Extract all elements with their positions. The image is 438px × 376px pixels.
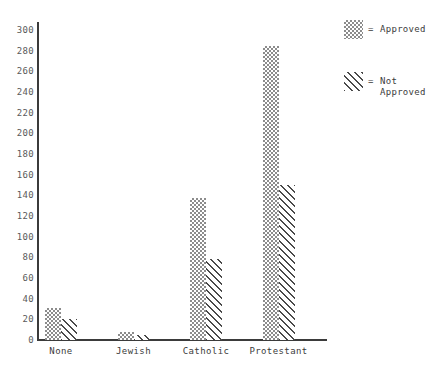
bar (118, 332, 134, 340)
bar (190, 198, 206, 340)
y-axis-tick-label: 160 (4, 170, 34, 180)
y-axis-tick-labels: 0204060801001201401601802002202402602803… (0, 0, 34, 376)
legend-equals-approved: = (368, 24, 373, 34)
bar (61, 319, 77, 340)
y-axis-tick-label: 280 (4, 46, 34, 56)
x-axis-category-label: None (49, 346, 72, 356)
y-axis-tick-label: 40 (4, 294, 34, 304)
y-axis-tick-label: 240 (4, 87, 34, 97)
bar (134, 335, 150, 340)
x-axis-category-label: Jewish (116, 346, 151, 356)
chart-legend: = Approved = Not Approved (344, 20, 438, 124)
legend-label-not-approved: Not Approved (380, 76, 426, 98)
y-axis-tick-label: 140 (4, 190, 34, 200)
legend-item-not-approved: = Not Approved (344, 72, 438, 106)
y-axis-tick-label: 60 (4, 273, 34, 283)
legend-item-approved: = Approved (344, 20, 438, 54)
y-axis-tick-label: 120 (4, 211, 34, 221)
y-axis-tick-label: 100 (4, 232, 34, 242)
bar-chart: 0204060801001201401601802002202402602803… (0, 0, 438, 376)
x-axis-category-label: Protestant (249, 346, 307, 356)
legend-label-approved: Approved (380, 24, 426, 35)
y-axis-tick-label: 20 (4, 314, 34, 324)
x-axis-category-label: Catholic (183, 346, 230, 356)
bar (45, 308, 61, 340)
legend-swatch-approved-icon (344, 20, 363, 39)
y-axis-tick-label: 0 (4, 335, 34, 345)
y-axis-tick-label: 200 (4, 128, 34, 138)
legend-swatch-not-approved-icon (344, 72, 363, 91)
bars-layer (39, 22, 329, 340)
bar (263, 46, 279, 341)
bar (206, 259, 222, 340)
legend-equals-not-approved: = (368, 76, 373, 86)
y-axis-tick-label: 180 (4, 149, 34, 159)
y-axis-tick-label: 220 (4, 108, 34, 118)
y-axis-tick-label: 80 (4, 252, 34, 262)
y-axis-tick-label: 300 (4, 25, 34, 35)
y-axis-tick-label: 260 (4, 66, 34, 76)
bar (279, 185, 295, 340)
